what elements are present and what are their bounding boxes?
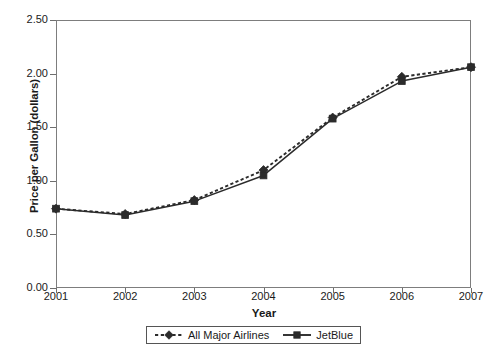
square-marker bbox=[294, 332, 300, 338]
chart-legend: All Major AirlinesJetBlue bbox=[146, 326, 361, 344]
x-axis-tick-label: 2001 bbox=[26, 290, 86, 303]
x-axis-tick-label: 2005 bbox=[303, 290, 363, 303]
square-marker bbox=[260, 172, 267, 179]
square-marker bbox=[398, 78, 405, 85]
square-marker bbox=[329, 115, 336, 122]
legend-swatch bbox=[154, 329, 184, 341]
x-axis-tick-label: 2004 bbox=[234, 290, 294, 303]
x-axis-tick-label: 2003 bbox=[164, 290, 224, 303]
series-line bbox=[56, 67, 471, 215]
y-axis-tick-label: 1.00 bbox=[10, 175, 48, 186]
series-all-major-airlines bbox=[52, 63, 476, 219]
y-axis-tick-label: 2.50 bbox=[10, 14, 48, 25]
legend-label: JetBlue bbox=[316, 329, 353, 341]
x-axis-tick-label: 2007 bbox=[441, 290, 491, 303]
square-marker bbox=[53, 205, 60, 212]
y-axis-tick-label: 0.50 bbox=[10, 228, 48, 239]
x-axis-tick-label: 2006 bbox=[372, 290, 432, 303]
line-chart: Price per Gallon (dollars) 0.000.501.001… bbox=[0, 0, 491, 348]
diamond-marker bbox=[165, 331, 174, 340]
x-axis-tick-label: 2002 bbox=[95, 290, 155, 303]
y-axis-tick-label: 1.50 bbox=[10, 121, 48, 132]
square-marker bbox=[122, 212, 129, 219]
square-marker bbox=[191, 198, 198, 205]
square-marker bbox=[468, 64, 475, 71]
legend-swatch bbox=[282, 329, 312, 341]
series-line bbox=[56, 67, 471, 214]
legend-entry: All Major Airlines bbox=[154, 329, 269, 341]
series-jetblue bbox=[53, 64, 475, 219]
legend-entry: JetBlue bbox=[282, 329, 353, 341]
y-axis-tick-label: 2.00 bbox=[10, 68, 48, 79]
legend-label: All Major Airlines bbox=[188, 329, 269, 341]
plot-area bbox=[56, 20, 471, 288]
x-axis-title: Year bbox=[56, 307, 472, 319]
x-axis-tick-labels: 2001200220032004200520062007 bbox=[0, 290, 491, 306]
